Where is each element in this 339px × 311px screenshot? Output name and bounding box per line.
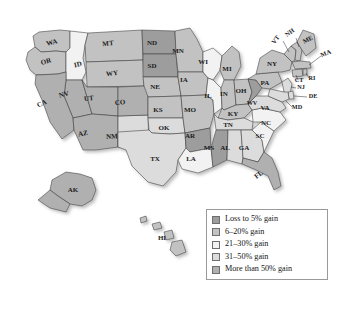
label-TX: TX: [150, 155, 160, 163]
legend-item-0: Loss to 5% gain: [212, 214, 322, 225]
label-OK: OK: [159, 124, 170, 132]
label-HI: HI: [158, 234, 166, 242]
label-NJ: NJ: [297, 83, 305, 90]
legend-swatch-1: [212, 228, 220, 236]
label-CT: CT: [295, 76, 304, 83]
leader-DE: [294, 96, 307, 97]
state-HI-2: [152, 222, 162, 230]
label-NY: NY: [267, 60, 277, 68]
label-NC: NC: [261, 119, 271, 127]
legend-swatch-3: [212, 253, 220, 261]
label-VT: VT: [270, 33, 281, 45]
legend-swatch-0: [212, 216, 220, 224]
legend-item-1: 6–20% gain: [212, 227, 322, 238]
state-MA: [292, 61, 311, 69]
label-WV: WV: [247, 99, 258, 106]
label-MT: MT: [102, 39, 114, 48]
label-RI: RI: [309, 74, 316, 81]
label-MA: MA: [319, 48, 332, 59]
label-WI: WI: [198, 58, 208, 66]
label-IA: IA: [180, 76, 188, 84]
leader-NJ: [291, 87, 296, 88]
map-legend: Loss to 5% gain 6–20% gain 21–30% gain 3…: [206, 209, 328, 280]
label-MS: MS: [204, 144, 215, 152]
legend-item-3: 31–50% gain: [212, 252, 322, 263]
label-LA: LA: [186, 155, 196, 163]
label-NE: NE: [150, 83, 160, 91]
legend-label-4: More than 50% gain: [225, 265, 292, 273]
state-HI-4: [170, 240, 186, 256]
state-MT: [85, 30, 143, 62]
leader-VT: [283, 41, 289, 52]
leader-MA: [309, 56, 321, 65]
label-MN: MN: [172, 47, 184, 55]
legend-label-3: 31–50% gain: [225, 253, 268, 261]
label-MD: MD: [292, 103, 303, 110]
label-SD: SD: [148, 62, 157, 70]
label-ID: ID: [73, 60, 82, 69]
label-UT: UT: [84, 94, 95, 103]
label-NM: NM: [106, 132, 119, 141]
label-TN: TN: [223, 121, 233, 129]
label-DE: DE: [309, 92, 318, 99]
legend-label-2: 21–30% gain: [225, 240, 268, 248]
label-ND: ND: [147, 39, 157, 47]
us-choropleth-map: WA OR ID MT WY NV UT CA AZ NM CO ND SD N…: [0, 0, 339, 311]
label-AR: AR: [185, 132, 196, 140]
state-MI: [220, 46, 241, 80]
label-KY: KY: [228, 110, 239, 118]
label-CO: CO: [114, 98, 126, 107]
label-KS: KS: [153, 106, 162, 114]
label-VA: VA: [260, 104, 269, 112]
legend-swatch-4: [212, 266, 220, 274]
label-AK: AK: [68, 186, 79, 194]
label-SC: SC: [256, 132, 265, 140]
legend-label-0: Loss to 5% gain: [225, 215, 278, 223]
state-NE: [143, 77, 181, 97]
label-PA: PA: [261, 79, 270, 87]
legend-swatch-2: [212, 241, 220, 249]
label-WY: WY: [106, 69, 119, 78]
label-AL: AL: [220, 144, 230, 152]
label-IN: IN: [220, 90, 228, 98]
legend-item-2: 21–30% gain: [212, 239, 322, 250]
state-HI-1: [140, 216, 147, 223]
label-MI: MI: [222, 65, 232, 73]
legend-item-4: More than 50% gain: [212, 264, 322, 275]
label-NH: NH: [283, 27, 295, 38]
state-MO: [181, 95, 214, 133]
label-OH: OH: [236, 87, 247, 95]
label-MO: MO: [184, 106, 197, 114]
legend-label-1: 6–20% gain: [225, 228, 264, 236]
label-GA: GA: [239, 144, 250, 152]
label-IL: IL: [204, 92, 212, 100]
